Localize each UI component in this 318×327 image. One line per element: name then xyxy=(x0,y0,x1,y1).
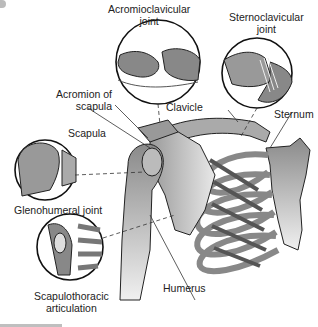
label-sternoclavicular: Sternoclavicular joint xyxy=(229,11,304,35)
label-acromioclavicular: Acromioclavicular joint xyxy=(108,3,190,27)
shoulder-illustration xyxy=(0,0,318,327)
label-sternum: Sternum xyxy=(274,108,314,120)
label-acromion: Acromion of scapula xyxy=(56,88,112,112)
label-humerus: Humerus xyxy=(163,282,206,294)
label-glenohumeral: Glenohumeral joint xyxy=(14,204,102,216)
label-acromioclavicular-line2: joint xyxy=(108,15,190,27)
label-scapulothoracic-line1: Scapulothoracic xyxy=(34,290,109,302)
label-scapula: Scapula xyxy=(68,127,106,139)
label-clavicle: Clavicle xyxy=(166,101,203,113)
scapulothoracic-inset xyxy=(37,214,103,280)
glenohumeral-inset xyxy=(15,140,76,200)
scapula-bone xyxy=(150,130,215,235)
label-scapulothoracic-line2: articulation xyxy=(34,302,109,314)
label-acromioclavicular-line1: Acromioclavicular xyxy=(108,3,190,15)
sternoclavicular-inset xyxy=(222,38,292,108)
label-sternoclavicular-line2: joint xyxy=(229,23,304,35)
label-acromion-line2: scapula xyxy=(56,100,112,112)
label-scapulothoracic: Scapulothoracic articulation xyxy=(34,290,109,314)
acromioclavicular-inset xyxy=(116,20,200,104)
label-acromion-line1: Acromion of xyxy=(56,88,112,100)
label-sternoclavicular-line1: Sternoclavicular xyxy=(229,11,304,23)
